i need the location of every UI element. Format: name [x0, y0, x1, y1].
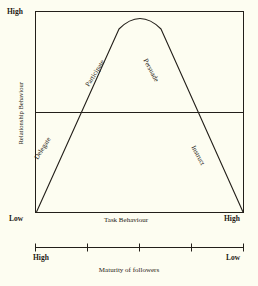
y-axis-title: Relationship Behaviour [18, 70, 25, 156]
bell-curve [37, 19, 244, 213]
maturity-scale-title: Maturity of followers [0, 267, 258, 274]
situational-leadership-figure: High Low Relationship Behaviour Task Beh… [0, 0, 258, 286]
x-axis-high-label: High [224, 215, 240, 223]
x-axis-title: Task Behaviour [104, 217, 148, 224]
maturity-scale-left-label: High [33, 254, 49, 262]
maturity-scale-right-label: Low [226, 254, 240, 262]
y-axis-low-label: Low [9, 215, 23, 223]
y-axis-high-label: High [7, 8, 23, 16]
figure-canvas [0, 0, 258, 286]
